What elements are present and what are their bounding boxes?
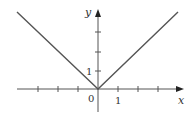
origin-label: 0 — [88, 93, 94, 104]
x-axis-label: x — [178, 94, 185, 107]
chart-canvas: y x 0 1 1 — [0, 0, 190, 118]
y-axis-arrow-icon — [95, 9, 101, 17]
y-tick-label-1: 1 — [86, 66, 92, 77]
x-tick-label-1: 1 — [115, 95, 121, 106]
y-axis-label: y — [84, 6, 92, 19]
x-axis-arrow-icon — [176, 86, 184, 92]
